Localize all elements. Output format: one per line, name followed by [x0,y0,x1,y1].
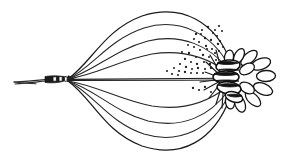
rosette-lobe [256,70,275,82]
figure-canvas: Scientific line drawing of elongate ribb… [0,0,293,161]
line-drawing-svg: Scientific line drawing of elongate ribb… [0,0,293,161]
